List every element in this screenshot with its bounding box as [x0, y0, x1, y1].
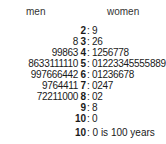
plot-row: 8633111110 5 : 01223345555889 — [0, 58, 166, 69]
plot-row: 2 : 9 — [0, 25, 166, 36]
key-legend: 10 : 0 is 100 years — [0, 127, 166, 138]
plot-row: 9 : 8 — [0, 102, 166, 113]
separator: : — [87, 91, 90, 102]
men-leaves: 997666442 — [31, 69, 78, 80]
men-leaves: 99863 — [52, 47, 78, 58]
plot-row: 997666442 6 : 01236678 — [0, 69, 166, 80]
plot-row: 8 3 : 26 — [0, 36, 166, 47]
men-leaves: 8633111110 — [28, 58, 78, 69]
separator: : — [87, 69, 90, 80]
separator: : — [87, 47, 90, 58]
men-header: men — [26, 6, 45, 17]
women-leaves: 01236678 — [92, 69, 134, 80]
stem: 10 — [75, 113, 86, 124]
women-leaves: 02 — [92, 91, 103, 102]
women-leaves: 8 — [92, 102, 97, 113]
stem: 4 — [80, 47, 86, 58]
plot-row: 99863 4 : 1256778 — [0, 47, 166, 58]
women-leaves: 0247 — [92, 80, 113, 91]
women-leaves: 01223345555889 — [92, 58, 166, 69]
men-leaves: 8 — [73, 36, 78, 47]
men-leaves: 72211000 — [37, 91, 78, 102]
men-leaves: 9764411 — [42, 80, 78, 91]
separator: : — [87, 25, 90, 36]
women-leaves: 9 — [92, 25, 97, 36]
women-leaves: 1256778 — [92, 47, 129, 58]
separator: : — [87, 102, 90, 113]
legend-stem: 10 — [75, 127, 86, 138]
stem-leaf-plot: 2 : 9 8 3 : 26 99863 4 : 1256778 8633111… — [0, 25, 166, 124]
separator: : — [87, 58, 90, 69]
plot-row: 72211000 8 : 02 — [0, 91, 166, 102]
women-header: women — [107, 6, 139, 17]
stem: 3 — [80, 36, 86, 47]
stem: 2 — [80, 25, 86, 36]
plot-row: 10 : 0 — [0, 113, 166, 124]
separator: : — [87, 113, 90, 124]
separator: : — [87, 80, 90, 91]
stem: 7 — [80, 80, 86, 91]
separator: : — [87, 36, 90, 47]
plot-row: 9764411 7 : 0247 — [0, 80, 166, 91]
women-leaves: 26 — [92, 36, 103, 47]
women-leaves: 0 — [92, 113, 97, 124]
stem: 8 — [80, 91, 86, 102]
legend-text: : 0 is 100 years — [87, 127, 155, 138]
stem: 5 — [80, 58, 86, 69]
stem: 6 — [80, 69, 86, 80]
stem: 9 — [80, 102, 86, 113]
